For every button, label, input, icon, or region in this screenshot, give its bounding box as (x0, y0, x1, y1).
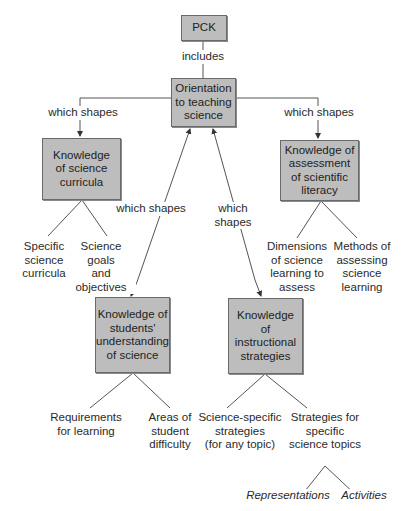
instructional-child-science-specific: Science-specific strategies (for any top… (196, 411, 284, 452)
curricula-child-goals: Science goals and objectives (66, 240, 136, 294)
which-shapes-mid-left-label: which shapes (116, 202, 186, 216)
curricula-node: Knowledge of science curricula (42, 138, 121, 200)
which-shapes-right-label: which shapes (284, 106, 354, 120)
students-node: Knowledge of students' understanding of … (95, 297, 170, 373)
instructional-node: Knowledge of instructional strategies (228, 298, 303, 374)
pck-node: PCK (181, 15, 227, 41)
includes-label: includes (178, 50, 228, 64)
assessment-node: Knowledge of assessment of scientific li… (280, 140, 359, 201)
orientation-node: Orientation to teaching science (171, 78, 236, 127)
students-child-difficulty: Areas of student difficulty (140, 411, 200, 452)
assessment-child-methods: Methods of assessing science learning (329, 240, 395, 294)
which-shapes-left-label: which shapes (48, 106, 118, 120)
curricula-child-specific: Specific science curricula (14, 240, 74, 281)
topics-child-activities: Activities (337, 489, 391, 503)
topics-child-representations: Representations (244, 489, 332, 503)
assessment-child-dimensions: Dimensions of science learning to assess (262, 240, 332, 294)
instructional-child-topics: Strategies for specific science topics (284, 411, 366, 452)
which-shapes-mid-right-label: which shapes (199, 202, 267, 229)
students-child-requirements: Requirements for learning (46, 411, 126, 438)
